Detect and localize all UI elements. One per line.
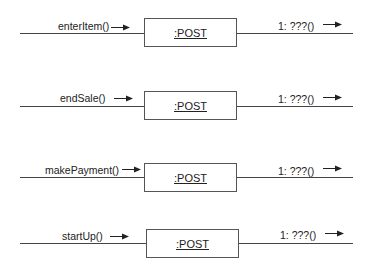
collaboration-row-endsale: endSale() :POST 1: ???() (0, 84, 370, 128)
arrow-right-icon (323, 94, 342, 101)
outgoing-message-label: 1: ???() (278, 93, 314, 105)
arrow-right-icon (325, 230, 344, 237)
object-name: :POST (174, 172, 207, 184)
object-name: :POST (176, 238, 209, 250)
collaboration-row-makepayment: makePayment() :POST 1: ???() (0, 156, 370, 200)
arrow-right-icon (111, 24, 130, 31)
incoming-message-label: makePayment() (45, 164, 119, 176)
arrow-right-icon (114, 95, 133, 102)
collaboration-row-enteritem: enterItem() :POST 1: ???() (0, 11, 370, 55)
outgoing-link (237, 106, 353, 107)
outgoing-message-label: 1: ???() (278, 20, 314, 32)
outgoing-message-label: 1: ???() (280, 229, 316, 241)
incoming-message-label: endSale() (60, 92, 106, 104)
incoming-message-label: enterItem() (58, 20, 109, 32)
arrow-right-icon (110, 233, 129, 240)
post-object-box: :POST (144, 163, 237, 192)
object-name: :POST (174, 100, 207, 112)
arrow-right-icon (323, 165, 342, 172)
post-object-box: :POST (146, 229, 239, 258)
incoming-message-label: startUp() (62, 230, 103, 242)
collaboration-row-startup: startUp() :POST 1: ???() (0, 222, 370, 266)
outgoing-link (237, 177, 353, 178)
arrow-right-icon (122, 166, 141, 173)
incoming-link (20, 33, 144, 34)
incoming-link (20, 243, 146, 244)
arrow-right-icon (323, 21, 342, 28)
incoming-link (20, 106, 144, 107)
outgoing-link (237, 33, 353, 34)
post-object-box: :POST (144, 18, 237, 47)
incoming-link (20, 177, 144, 178)
post-object-box: :POST (144, 91, 237, 120)
outgoing-message-label: 1: ???() (278, 165, 314, 177)
object-name: :POST (174, 27, 207, 39)
outgoing-link (239, 243, 353, 244)
